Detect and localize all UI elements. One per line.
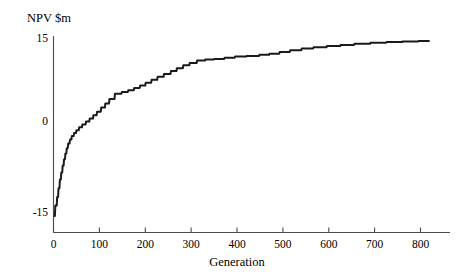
x-tick-label: 600 <box>320 238 338 250</box>
x-tick-label: 400 <box>228 238 246 250</box>
x-tick-label: 100 <box>91 238 109 250</box>
x-tick-label: 800 <box>412 238 430 250</box>
x-tick-label: 500 <box>274 238 292 250</box>
x-axis-title: Generation <box>209 255 265 269</box>
x-tick-label: 300 <box>182 238 200 250</box>
x-tick-label: 200 <box>137 238 155 250</box>
y-tick-label: 15 <box>37 32 49 44</box>
x-axis-ticks <box>54 228 421 233</box>
y-tick-label: -15 <box>33 206 49 218</box>
x-axis-tick-labels: 0 100 200 300 400 500 600 700 800 <box>51 238 430 250</box>
x-tick-label: 0 <box>51 238 57 250</box>
x-tick-label: 700 <box>366 238 384 250</box>
line-chart: NPV $m 15 0 -15 0 100 200 300 <box>0 0 458 277</box>
data-series-npv <box>54 41 430 216</box>
y-axis-title: NPV $m <box>27 11 71 25</box>
y-axis-ticks: 15 0 -15 <box>33 32 49 218</box>
chart-figure: NPV $m 15 0 -15 0 100 200 300 <box>0 0 458 277</box>
y-tick-label: 0 <box>42 115 48 127</box>
